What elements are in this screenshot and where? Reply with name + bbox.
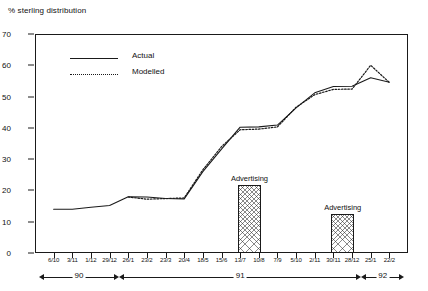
x-tick-label: 15/6 xyxy=(216,257,227,263)
advertising-bar xyxy=(331,214,354,253)
y-tick-mark xyxy=(28,96,34,97)
year-bracket-left-arrow-icon xyxy=(119,274,124,280)
y-tick-mark xyxy=(28,190,34,191)
x-tick-label: 10/8 xyxy=(253,257,264,263)
year-bracket: 91 xyxy=(119,271,361,285)
y-tick-label: 30 xyxy=(2,155,11,164)
x-tick-label: 28/12 xyxy=(345,257,360,263)
year-bracket-left-arrow-icon xyxy=(361,274,366,280)
y-tick-mark xyxy=(28,34,34,35)
x-tick-label: 7/9 xyxy=(273,257,281,263)
y-tick-label: 70 xyxy=(2,30,11,39)
chart-container: % sterling distribution 010203040506070 … xyxy=(0,0,428,291)
year-bracket: 92 xyxy=(361,271,404,285)
y-tick-label: 0 xyxy=(7,249,11,258)
x-tick-label: 6/10 xyxy=(48,257,59,263)
y-tick-mark xyxy=(28,127,34,128)
year-bracket: 90 xyxy=(39,271,119,285)
legend-label-modelled: Modelled xyxy=(132,67,164,76)
y-tick-label: 10 xyxy=(2,217,11,226)
x-tick-label: 13/7 xyxy=(235,257,246,263)
year-bracket-left-arrow-icon xyxy=(39,274,44,280)
y-tick-label: 20 xyxy=(2,186,11,195)
year-bracket-right-arrow-icon xyxy=(399,274,404,280)
x-tick-label: 18/5 xyxy=(197,257,208,263)
year-bracket-label: 92 xyxy=(376,271,389,280)
year-bracket-label: 91 xyxy=(234,271,247,280)
x-tick-label: 2/11 xyxy=(309,257,320,263)
x-tick-label: 23/3 xyxy=(160,257,171,263)
y-tick-mark xyxy=(28,65,34,66)
x-tick-label: 30/11 xyxy=(326,257,340,263)
y-axis: 010203040506070 xyxy=(0,0,35,291)
year-bracket-label: 90 xyxy=(73,271,86,280)
legend-swatch-actual xyxy=(70,58,118,59)
x-tick-label: 3/11 xyxy=(67,257,78,263)
x-tick-label: 26/1 xyxy=(123,257,134,263)
y-tick-label: 60 xyxy=(2,61,11,70)
advertising-bar xyxy=(238,185,261,253)
y-tick-mark xyxy=(28,221,34,222)
x-tick-label: 20/4 xyxy=(179,257,190,263)
x-tick-label: 1/12 xyxy=(85,257,96,263)
advertising-bar-label: Advertising xyxy=(324,203,361,212)
x-tick-label: 25/1 xyxy=(365,257,376,263)
legend-label-actual: Actual xyxy=(132,51,154,60)
x-tick-label: 29/12 xyxy=(102,257,117,263)
y-tick-mark xyxy=(28,253,34,254)
y-tick-mark xyxy=(28,159,34,160)
x-tick-label: 23/2 xyxy=(141,257,152,263)
x-tick-label: 22/2 xyxy=(384,257,395,263)
y-tick-label: 50 xyxy=(2,92,11,101)
advertising-bar-label: Advertising xyxy=(231,174,268,183)
x-tick-label: 5/10 xyxy=(290,257,301,263)
y-tick-label: 40 xyxy=(2,123,11,132)
legend-swatch-modelled xyxy=(70,74,118,75)
